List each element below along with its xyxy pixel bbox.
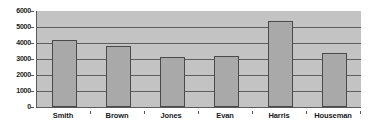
y-tick-mark	[30, 27, 34, 28]
plot-area	[36, 11, 361, 108]
y-tick-mark	[30, 75, 34, 76]
x-tick-mark	[360, 111, 361, 114]
y-tick-mark	[30, 107, 34, 108]
bar-evan	[214, 56, 239, 107]
y-tick-label: 4000	[16, 39, 31, 47]
y-tick-mark	[30, 43, 34, 44]
y-tick-label: 1000	[16, 87, 31, 95]
y-tick-label: 2000	[16, 71, 31, 79]
x-tick-label: Evan	[198, 111, 252, 121]
x-tick-label: Brown	[90, 111, 144, 121]
y-tick-label: 5000	[16, 23, 31, 31]
bar-smith	[52, 40, 77, 107]
x-tick-label: Houseman	[306, 111, 360, 121]
bar-jones	[160, 57, 185, 107]
y-tick-mark	[30, 91, 34, 92]
y-axis: 0100020003000400050006000	[0, 0, 34, 132]
bar-brown	[106, 46, 131, 107]
x-tick-label: Smith	[36, 111, 90, 121]
x-axis: SmithBrownJonesEvanHarrisHouseman	[36, 111, 360, 125]
y-tick-label: 3000	[16, 55, 31, 63]
bar-chart: 0100020003000400050006000 SmithBrownJone…	[0, 0, 371, 132]
y-tick-label: 6000	[16, 7, 31, 15]
x-tick-label: Harris	[252, 111, 306, 121]
y-tick-mark	[30, 59, 34, 60]
y-tick-mark	[30, 11, 34, 12]
bar-houseman	[322, 53, 347, 107]
bar-harris	[268, 21, 293, 107]
bars-group	[37, 11, 361, 107]
x-tick-label: Jones	[144, 111, 198, 121]
